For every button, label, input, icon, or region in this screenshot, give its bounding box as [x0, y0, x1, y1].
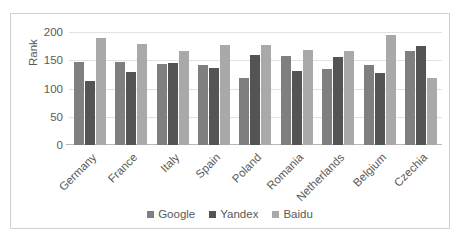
bar-group: [110, 32, 151, 145]
y-axis-tick-label: 150: [44, 54, 63, 66]
bar[interactable]: [74, 62, 84, 145]
x-axis-category-label: Spain: [193, 151, 222, 180]
y-axis-tick-label: 50: [50, 111, 63, 123]
legend-label: Google: [158, 208, 195, 220]
bar[interactable]: [405, 51, 415, 145]
y-axis-tick-label: 100: [44, 83, 63, 95]
legend-swatch-icon: [209, 211, 216, 218]
bar[interactable]: [157, 64, 167, 145]
bar[interactable]: [220, 45, 230, 145]
y-axis-tick-label: 200: [44, 26, 63, 38]
legend-item[interactable]: Google: [147, 208, 195, 220]
bar[interactable]: [126, 72, 136, 145]
bar-group: [318, 32, 359, 145]
x-axis-label-cell: Germany: [69, 147, 110, 209]
bar-group: [69, 32, 110, 145]
bar[interactable]: [416, 46, 426, 145]
bar[interactable]: [137, 44, 147, 145]
bar[interactable]: [179, 51, 189, 145]
bar[interactable]: [427, 78, 437, 145]
bar[interactable]: [386, 35, 396, 145]
x-axis-label-cell: Czechia: [401, 147, 442, 209]
chart-legend: GoogleYandexBaidu: [11, 208, 449, 220]
x-axis-category-labels: GermanyFranceItalySpainPolandRomaniaNeth…: [69, 147, 442, 209]
bar-group: [152, 32, 193, 145]
y-axis-tick-label: 0: [57, 139, 63, 151]
bar[interactable]: [250, 55, 260, 145]
x-axis-label-cell: Italy: [152, 147, 193, 209]
x-axis-category-label: Italy: [158, 151, 181, 174]
bar[interactable]: [239, 78, 249, 145]
legend-label: Yandex: [220, 208, 258, 220]
bar-group: [193, 32, 234, 145]
x-axis-category-label: Germany: [56, 151, 98, 193]
legend-item[interactable]: Yandex: [209, 208, 258, 220]
bar-group: [359, 32, 400, 145]
bar[interactable]: [292, 71, 302, 145]
x-axis-category-label: France: [106, 151, 140, 185]
bar[interactable]: [261, 45, 271, 145]
bar-group: [235, 32, 276, 145]
bar[interactable]: [209, 68, 219, 145]
x-axis-category-label: Poland: [230, 151, 264, 185]
bar[interactable]: [168, 63, 178, 145]
legend-swatch-icon: [147, 211, 154, 218]
bar-group: [401, 32, 442, 145]
y-axis-title: Rank: [27, 39, 39, 66]
bar[interactable]: [115, 62, 125, 145]
x-axis-label-cell: Spain: [193, 147, 234, 209]
chart-frame: Rank 050100150200 GermanyFranceItalySpai…: [10, 13, 450, 229]
bar[interactable]: [364, 65, 374, 145]
bar-groups: [69, 32, 442, 145]
bar[interactable]: [322, 69, 332, 145]
x-axis-label-cell: France: [110, 147, 151, 209]
bar[interactable]: [333, 57, 343, 145]
bar[interactable]: [198, 65, 208, 145]
legend-label: Baidu: [283, 208, 312, 220]
legend-swatch-icon: [272, 211, 279, 218]
bar[interactable]: [96, 38, 106, 145]
bar[interactable]: [85, 81, 95, 145]
bar[interactable]: [281, 56, 291, 145]
bar[interactable]: [375, 73, 385, 145]
legend-item[interactable]: Baidu: [272, 208, 312, 220]
plot-area: 050100150200: [69, 32, 442, 145]
bar[interactable]: [344, 51, 354, 145]
bar[interactable]: [303, 50, 313, 145]
bar-group: [276, 32, 317, 145]
